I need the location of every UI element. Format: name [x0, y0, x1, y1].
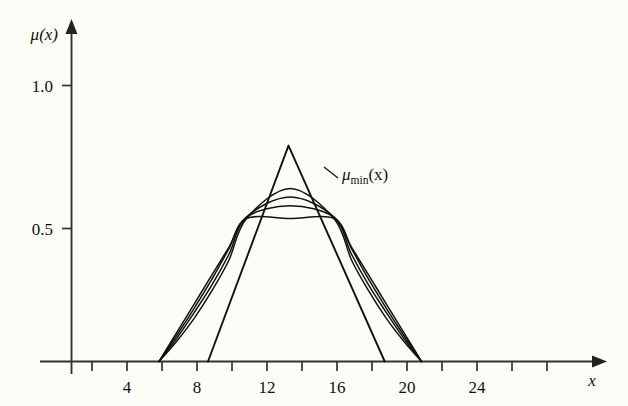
y-axis [66, 19, 78, 374]
xtick-label-24: 24 [469, 378, 487, 397]
chart-canvas: 4 8 12 16 20 24 1.0 0.5 μ(x) x μmin(x) [0, 0, 628, 406]
mu-min-subscript: min [351, 174, 369, 186]
xtick-label-8: 8 [193, 378, 202, 397]
curve-mean_family_p4 [159, 188, 422, 361]
x-axis-label: x [587, 371, 596, 390]
svg-text:μmin(x): μmin(x) [341, 165, 388, 186]
curve-mean_family_p3 [159, 197, 422, 361]
x-axis [40, 356, 607, 368]
y-axis-ticks [62, 86, 72, 229]
curve-mean_family_p1 [159, 216, 422, 361]
xtick-label-12: 12 [259, 378, 276, 397]
mu-min-suffix: (x) [368, 165, 388, 184]
xtick-label-4: 4 [123, 378, 132, 397]
curve-mean_family_p2 [159, 206, 422, 362]
chart-figure: 4 8 12 16 20 24 1.0 0.5 μ(x) x μmin(x) [0, 0, 628, 406]
y-axis-label: μ(x) [30, 25, 59, 44]
xtick-label-20: 20 [399, 378, 416, 397]
annotation-leader-line [324, 167, 338, 178]
ytick-label-0-5: 0.5 [32, 220, 53, 239]
mu-min-symbol: μ [341, 165, 351, 184]
ytick-label-1-0: 1.0 [32, 77, 53, 96]
x-axis-ticks [92, 362, 547, 372]
xtick-label-16: 16 [329, 378, 346, 397]
mu-min-annotation: μmin(x) [341, 165, 388, 186]
